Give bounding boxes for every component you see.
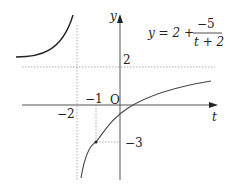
equation: y = 2 + −5 t + 2 (147, 17, 224, 49)
tick-label-x-neg2: −2 (57, 107, 75, 121)
t-axis-label: t (212, 110, 217, 124)
tick-label-y-neg3: −3 (125, 136, 143, 150)
equation-denominator: t + 2 (194, 35, 224, 49)
marked-point (95, 141, 98, 144)
tick-label-x-neg1: −1 (85, 92, 103, 106)
origin-label: O (110, 93, 120, 107)
t-axis-arrow-icon (209, 102, 218, 108)
equation-lhs: y = 2 + (147, 26, 194, 40)
equation-numerator: −5 (197, 17, 215, 31)
y-axis-label: y (109, 9, 117, 23)
y-axis-arrow-icon (117, 14, 123, 23)
graph-canvas: y t O 2 −2 −1 −3 y = 2 + −5 t + 2 (0, 0, 234, 193)
left-branch-curve (16, 15, 73, 57)
tick-label-y-2: 2 (123, 53, 131, 67)
